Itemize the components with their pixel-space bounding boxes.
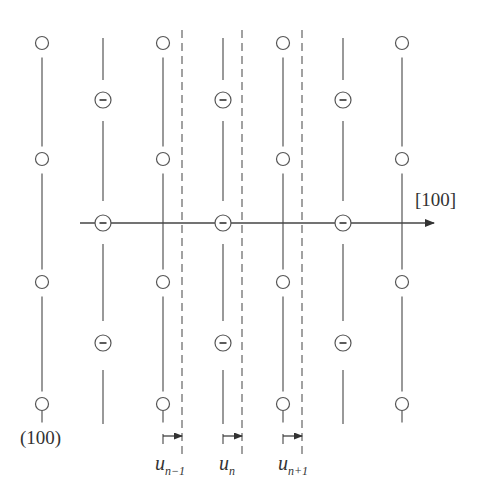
neutral-atom-icon [277,153,290,166]
displaced-plane-markers [182,30,302,455]
anion-minus-icon [215,215,231,231]
anion-minus-icon [95,335,111,351]
lattice-diagram: [100] (100) un−1 un un+1 [0,0,498,497]
displacement-arrows [163,434,302,444]
plane-label: (100) [20,427,61,449]
anion-minus-icon [95,92,111,108]
anion-minus-icon [335,92,351,108]
neutral-atom-icon [396,398,409,411]
anion-minus-icon [215,92,231,108]
u-n-minus-1-label: un−1 [155,452,185,478]
neutral-atom-icon [157,398,170,411]
diagram-canvas: [100] (100) un−1 un un+1 [0,0,498,497]
neutral-atom-icon [277,37,290,50]
u-n-plus-1-label: un+1 [278,452,308,478]
anion-minus-icon [215,335,231,351]
neutral-atom-icon [36,153,49,166]
neutral-atom-icon [157,37,170,50]
anion-minus-icon [95,215,111,231]
neutral-atom-icon [396,276,409,289]
u-n-label: un [219,452,235,478]
neutral-atom-icon [36,37,49,50]
neutral-atom-icon [277,276,290,289]
neutral-atom-icon [36,398,49,411]
anion-minus-icon [335,335,351,351]
neutral-atom-icon [396,37,409,50]
neutral-atom-icon [36,276,49,289]
neutral-atom-icon [157,276,170,289]
neutral-atom-icon [277,398,290,411]
neutral-atom-icon [396,153,409,166]
anion-minus-icon [335,215,351,231]
direction-label: [100] [415,189,456,210]
neutral-atom-icon [157,153,170,166]
